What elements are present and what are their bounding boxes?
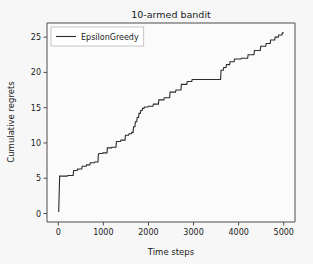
figure-canvas: 10-armed bandit 0510152025 0100020003000…: [0, 0, 313, 264]
y-tick-label: 15: [31, 104, 41, 113]
y-axis-label: Cumulative regrets: [6, 81, 16, 163]
x-tick-label: 4000: [228, 228, 248, 237]
y-tick-label: 25: [31, 33, 41, 42]
x-tick-label: 0: [56, 228, 61, 237]
x-tick-label: 2000: [138, 228, 158, 237]
chart-plot: 10-armed bandit 0510152025 0100020003000…: [0, 0, 313, 264]
x-tick-label: 3000: [183, 228, 203, 237]
x-tick-label: 5000: [274, 228, 294, 237]
x-tick-label: 1000: [93, 228, 113, 237]
x-axis-label: Time steps: [147, 247, 195, 257]
chart-title: 10-armed bandit: [131, 9, 211, 20]
chart-legend[interactable]: EpsilonGreedy: [51, 27, 144, 46]
y-tick-label: 20: [31, 68, 41, 77]
plot-area-background: [47, 23, 295, 222]
y-tick-label: 10: [31, 139, 41, 148]
legend-entry-label: EpsilonGreedy: [81, 33, 139, 42]
y-tick-label: 0: [36, 210, 41, 219]
y-tick-label: 5: [36, 174, 41, 183]
